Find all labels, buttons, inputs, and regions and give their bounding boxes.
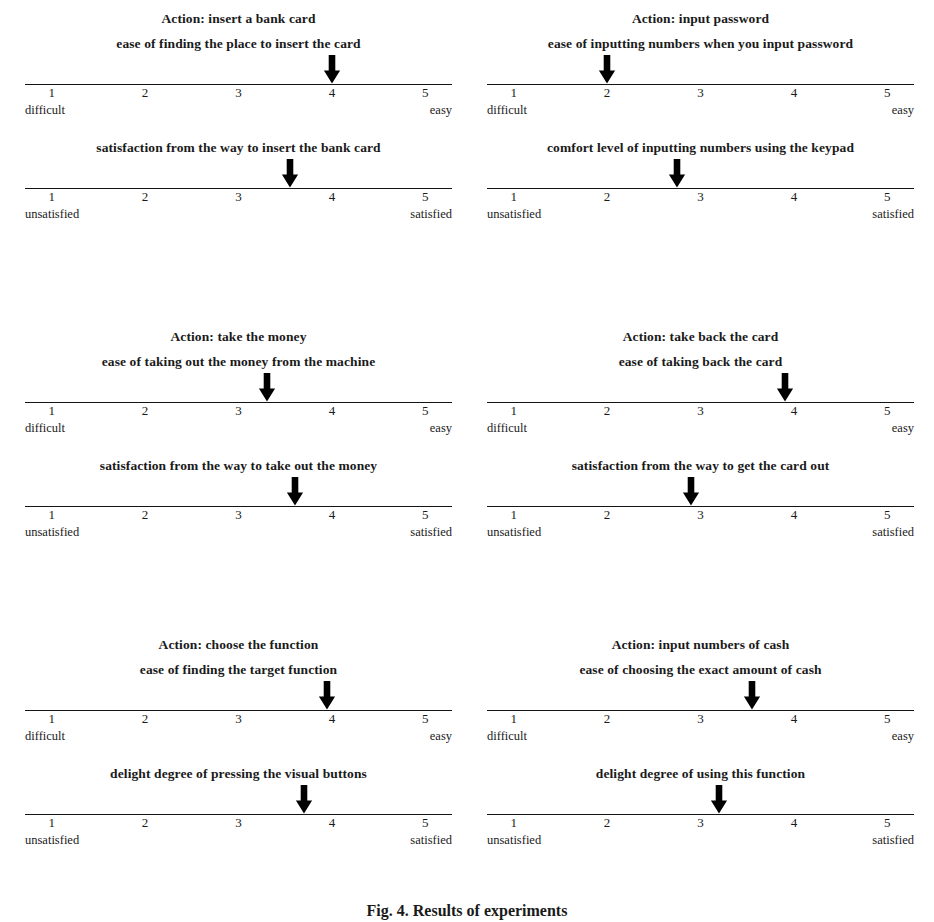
scale-ticks: 1 2 3 4 5 — [25, 403, 452, 422]
value-marker-arrow-icon — [323, 55, 340, 84]
rating-scale: 1 2 3 4 5 unsatisfied satisfied — [487, 784, 914, 851]
panel-action-title: Action: take the money — [25, 330, 452, 345]
tick-4: 4 — [791, 816, 798, 829]
anchor-low-label: unsatisfied — [25, 834, 79, 847]
scale-item-label: satisfaction from the way to take out th… — [25, 459, 452, 474]
tick-2: 2 — [142, 816, 149, 829]
value-marker-arrow-icon — [286, 477, 303, 506]
tick-3: 3 — [697, 508, 704, 521]
panel-action-title: Action: insert a bank card — [25, 12, 452, 27]
anchor-high-label: easy — [892, 104, 914, 117]
tick-4: 4 — [329, 404, 336, 417]
scale-item-label: ease of inputting numbers when you input… — [487, 37, 914, 52]
tick-1: 1 — [48, 712, 55, 725]
scale-ticks: 1 2 3 4 5 — [487, 507, 914, 526]
scale-item-label: ease of choosing the exact amount of cas… — [487, 663, 914, 678]
scale-item-label: ease of finding the target function — [25, 663, 452, 678]
tick-3: 3 — [235, 404, 242, 417]
anchor-low-label: difficult — [25, 730, 65, 743]
tick-1: 1 — [48, 86, 55, 99]
arrow-lane — [487, 680, 914, 710]
tick-2: 2 — [604, 816, 611, 829]
anchor-low-label: unsatisfied — [25, 526, 79, 539]
tick-4: 4 — [791, 508, 798, 521]
tick-4: 4 — [329, 816, 336, 829]
tick-4: 4 — [329, 508, 336, 521]
anchor-high-label: satisfied — [872, 208, 914, 221]
panel-choose-the-function: Action: choose the function ease of find… — [25, 638, 452, 851]
tick-4: 4 — [791, 190, 798, 203]
rating-scale: 1 2 3 4 5 difficult easy — [487, 680, 914, 747]
scale-ticks: 1 2 3 4 5 — [487, 189, 914, 208]
tick-2: 2 — [142, 86, 149, 99]
anchor-high-label: satisfied — [410, 208, 452, 221]
tick-4: 4 — [329, 190, 336, 203]
tick-3: 3 — [235, 712, 242, 725]
scale-anchors: difficult easy — [25, 730, 452, 747]
anchor-low-label: unsatisfied — [487, 526, 541, 539]
anchor-high-label: satisfied — [410, 526, 452, 539]
arrow-lane — [487, 784, 914, 814]
tick-3: 3 — [235, 86, 242, 99]
tick-3: 3 — [697, 816, 704, 829]
value-marker-arrow-icon — [776, 373, 793, 402]
anchor-high-label: easy — [892, 422, 914, 435]
tick-5: 5 — [884, 508, 891, 521]
anchor-high-label: easy — [430, 730, 452, 743]
rating-scale: 1 2 3 4 5 unsatisfied satisfied — [25, 158, 452, 225]
scale-anchors: difficult easy — [487, 422, 914, 439]
rating-scale: 1 2 3 4 5 unsatisfied satisfied — [25, 476, 452, 543]
tick-4: 4 — [791, 712, 798, 725]
tick-2: 2 — [142, 508, 149, 521]
anchor-low-label: unsatisfied — [487, 834, 541, 847]
value-marker-arrow-icon — [319, 681, 336, 710]
scale-ticks: 1 2 3 4 5 — [25, 189, 452, 208]
scale-ticks: 1 2 3 4 5 — [487, 403, 914, 422]
scale-ticks: 1 2 3 4 5 — [487, 815, 914, 834]
value-marker-arrow-icon — [599, 55, 616, 84]
anchor-low-label: unsatisfied — [487, 208, 541, 221]
tick-2: 2 — [604, 712, 611, 725]
value-marker-arrow-icon — [295, 785, 312, 814]
value-marker-arrow-icon — [743, 681, 760, 710]
panel-action-title: Action: input password — [487, 12, 914, 27]
tick-5: 5 — [422, 86, 429, 99]
scale-ticks: 1 2 3 4 5 — [487, 711, 914, 730]
arrow-lane — [487, 158, 914, 188]
tick-5: 5 — [422, 712, 429, 725]
tick-5: 5 — [422, 508, 429, 521]
panel-take-back-the-card: Action: take back the card ease of takin… — [487, 330, 914, 543]
rating-scale: 1 2 3 4 5 unsatisfied satisfied — [487, 476, 914, 543]
tick-3: 3 — [697, 404, 704, 417]
scale-anchors: difficult easy — [25, 104, 452, 121]
scale-ticks: 1 2 3 4 5 — [25, 711, 452, 730]
tick-5: 5 — [422, 404, 429, 417]
tick-2: 2 — [142, 712, 149, 725]
scale-ticks: 1 2 3 4 5 — [25, 507, 452, 526]
arrow-lane — [487, 372, 914, 402]
tick-3: 3 — [697, 190, 704, 203]
tick-1: 1 — [48, 404, 55, 417]
anchor-high-label: easy — [430, 104, 452, 117]
scale-item-label: satisfaction from the way to insert the … — [25, 141, 452, 156]
rating-scale: 1 2 3 4 5 unsatisfied satisfied — [25, 784, 452, 851]
tick-3: 3 — [235, 190, 242, 203]
scale-anchors: difficult easy — [25, 422, 452, 439]
tick-5: 5 — [884, 86, 891, 99]
value-marker-arrow-icon — [258, 373, 275, 402]
scale-anchors: unsatisfied satisfied — [25, 526, 452, 543]
value-marker-arrow-icon — [683, 477, 700, 506]
anchor-low-label: difficult — [487, 104, 527, 117]
anchor-low-label: unsatisfied — [25, 208, 79, 221]
panel-input-numbers-of-cash: Action: input numbers of cash ease of ch… — [487, 638, 914, 851]
anchor-high-label: satisfied — [410, 834, 452, 847]
arrow-lane — [25, 680, 452, 710]
anchor-high-label: easy — [892, 730, 914, 743]
tick-3: 3 — [697, 86, 704, 99]
scale-anchors: difficult easy — [487, 730, 914, 747]
anchor-low-label: difficult — [487, 730, 527, 743]
scale-anchors: unsatisfied satisfied — [487, 834, 914, 851]
scale-ticks: 1 2 3 4 5 — [25, 85, 452, 104]
scale-item-label: satisfaction from the way to get the car… — [487, 459, 914, 474]
panel-action-title: Action: choose the function — [25, 638, 452, 653]
